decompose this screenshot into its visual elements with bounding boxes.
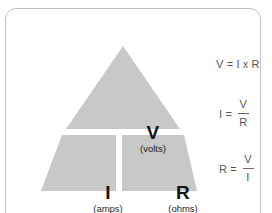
triangle-cell-top	[66, 46, 180, 129]
formula-current-lhs: I	[219, 108, 222, 120]
formula-voltage-equals: =	[227, 58, 234, 70]
formula-resistance-denominator: I	[244, 172, 251, 183]
triangle-label-voltage: V (volts)	[120, 123, 186, 154]
fraction-bar-icon	[238, 113, 249, 114]
formula-resistance-fraction: V I	[242, 154, 254, 183]
formula-voltage-operator: x	[243, 59, 248, 70]
triangle-label-resistance: R (ohms)	[154, 183, 212, 213]
formula-current-numerator: V	[238, 99, 250, 110]
resistance-symbol: R	[154, 183, 212, 202]
formula-current-denominator: R	[237, 117, 249, 128]
voltage-symbol: V	[120, 123, 186, 142]
triangle-label-current: I (amps)	[80, 183, 136, 213]
current-symbol: I	[80, 183, 136, 202]
ohms-law-triangle: V (volts) I (amps) R (ohms)	[36, 41, 202, 197]
formula-voltage-lhs: V	[216, 58, 224, 70]
voltage-unit: (volts)	[120, 144, 186, 154]
formula-resistance-equals: =	[230, 163, 237, 175]
formula-voltage: V = I x R	[216, 58, 260, 70]
formula-voltage-operand-left: I	[237, 58, 240, 70]
formula-resistance: R = V I	[219, 154, 254, 183]
current-unit: (amps)	[80, 204, 136, 213]
formula-resistance-lhs: R	[219, 163, 227, 175]
diagram-card: V (volts) I (amps) R (ohms) V = I x R	[5, 8, 261, 213]
formula-resistance-numerator: V	[242, 154, 254, 165]
triangle-svg	[36, 41, 202, 197]
fraction-bar-icon	[243, 168, 254, 169]
formula-current-equals: =	[225, 108, 232, 120]
figure-root: V (volts) I (amps) R (ohms) V = I x R	[0, 0, 272, 213]
formula-voltage-operand-right: R	[251, 58, 259, 70]
formula-current-fraction: V R	[237, 99, 249, 128]
formula-current: I = V R	[219, 99, 250, 128]
resistance-unit: (ohms)	[154, 204, 212, 213]
